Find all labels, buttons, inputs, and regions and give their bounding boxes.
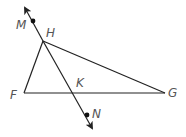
segment-hg: [43, 41, 165, 93]
point-n-dot: [85, 113, 90, 118]
segment-fh: [24, 41, 43, 93]
point-m-dot: [31, 19, 36, 24]
geometry-diagram: M H F G K N: [0, 0, 186, 137]
label-f: F: [10, 88, 18, 102]
line-mn-upper-arrow: [25, 8, 43, 41]
label-m: M: [16, 18, 27, 32]
label-n: N: [92, 107, 101, 121]
label-g: G: [168, 86, 177, 100]
label-h: H: [46, 26, 55, 40]
diagram-canvas: M H F G K N: [0, 0, 186, 137]
label-k: K: [76, 76, 85, 90]
